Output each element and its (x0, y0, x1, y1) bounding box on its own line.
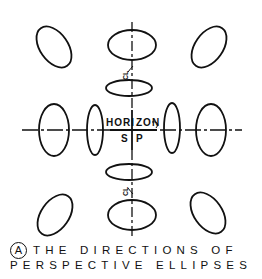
station-point-label-p: P (136, 133, 143, 144)
caption-text-1: THE DIRECTIONS OF (33, 244, 238, 256)
caption-text-2: PERSPECTIVE ELLIPSES (10, 259, 252, 271)
ellipse-bottom-right (183, 186, 232, 240)
ellipse-right-small (164, 103, 180, 153)
center-line-label-bottom: CL (122, 186, 129, 196)
perspective-ellipses-diagram: HORI ZON S P CL CL (0, 0, 262, 279)
ellipse-top-left (29, 20, 78, 74)
caption-line-2: PERSPECTIVE ELLIPSES (10, 259, 262, 271)
center-line-label-top: CL (122, 70, 129, 80)
caption-line-1: ATHE DIRECTIONS OF (10, 242, 262, 259)
ellipse-top-right (184, 20, 233, 74)
ellipse-lower-center-small (106, 164, 152, 180)
horizon-label-left: HORI (106, 117, 135, 128)
horizon-label-right: ZON (136, 117, 160, 128)
caption-marker-circle: A (10, 242, 27, 259)
ellipse-bottom-left (30, 188, 79, 242)
ellipse-upper-center-small (106, 80, 152, 96)
station-point-label-s: S (121, 133, 128, 144)
